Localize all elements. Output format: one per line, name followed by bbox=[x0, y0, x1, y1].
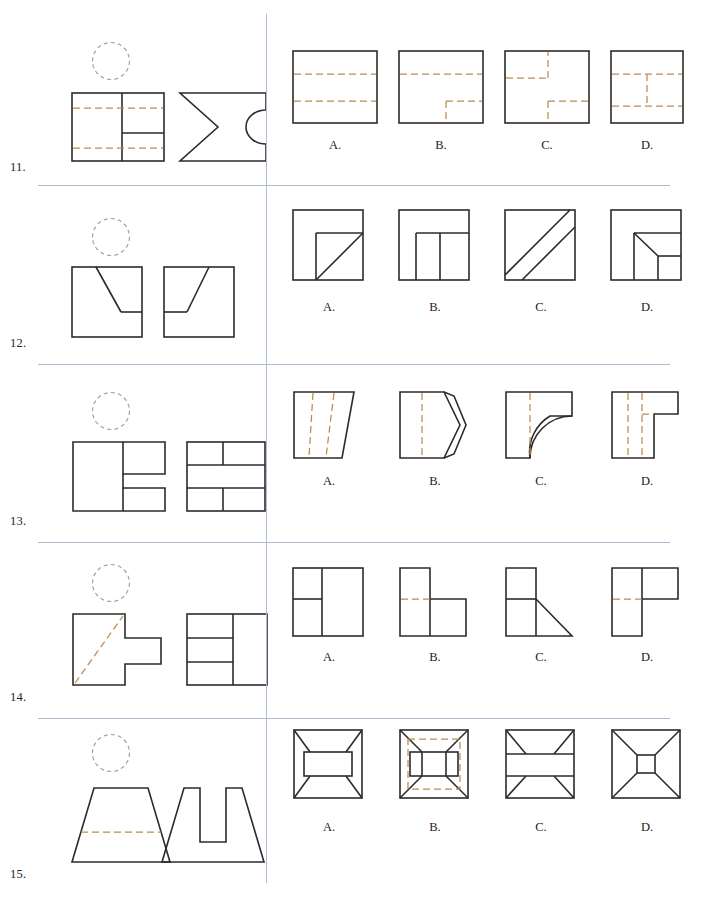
missing-view-circle-11 bbox=[88, 38, 134, 84]
option-label-13-C: C. bbox=[528, 474, 554, 489]
given-view-top-13 bbox=[186, 440, 268, 514]
option-figure-15-A bbox=[292, 728, 368, 804]
option-figure-14-A bbox=[292, 566, 368, 638]
option-figure-15-D bbox=[610, 728, 686, 804]
problem-number: 14. bbox=[10, 690, 26, 705]
given-view-top-14 bbox=[186, 612, 270, 688]
option-figure-11-A bbox=[292, 50, 378, 124]
option-label-12-A: A. bbox=[316, 300, 342, 315]
option-label-15-C: C. bbox=[528, 820, 554, 835]
problem-number: 12. bbox=[10, 336, 26, 351]
given-view-side-11 bbox=[178, 92, 268, 164]
missing-view-circle-13 bbox=[88, 388, 134, 434]
option-label-11-D: D. bbox=[634, 138, 660, 153]
column-divider bbox=[266, 14, 267, 883]
option-figure-11-D bbox=[610, 50, 684, 124]
option-figure-12-D bbox=[610, 209, 684, 283]
option-label-14-C: C. bbox=[528, 650, 554, 665]
option-label-15-B: B. bbox=[422, 820, 448, 835]
given-view-front-13 bbox=[71, 440, 169, 514]
option-label-13-D: D. bbox=[634, 474, 660, 489]
option-label-15-A: A. bbox=[316, 820, 342, 835]
option-figure-15-C bbox=[504, 728, 580, 804]
problem-12: 12. A. B. bbox=[0, 186, 707, 366]
option-figure-13-D bbox=[610, 390, 686, 462]
option-figure-13-B bbox=[398, 390, 474, 462]
option-label-14-D: D. bbox=[634, 650, 660, 665]
given-view-front-14 bbox=[71, 612, 171, 688]
option-figure-12-B bbox=[398, 209, 472, 283]
option-figure-12-C bbox=[504, 209, 578, 283]
option-label-13-A: A. bbox=[316, 474, 342, 489]
option-label-14-A: A. bbox=[316, 650, 342, 665]
option-label-12-D: D. bbox=[634, 300, 660, 315]
problem-divider bbox=[38, 542, 670, 543]
option-label-13-B: B. bbox=[422, 474, 448, 489]
option-figure-11-C bbox=[504, 50, 590, 124]
given-view-front-15 bbox=[68, 786, 174, 866]
option-label-11-C: C. bbox=[534, 138, 560, 153]
problem-divider bbox=[38, 364, 670, 365]
option-figure-12-A bbox=[292, 209, 366, 283]
given-view-side-15 bbox=[160, 786, 268, 866]
option-figure-15-B bbox=[398, 728, 474, 804]
option-label-15-D: D. bbox=[634, 820, 660, 835]
problem-number: 11. bbox=[10, 160, 26, 175]
option-label-12-B: B. bbox=[422, 300, 448, 315]
problem-number: 13. bbox=[10, 514, 26, 529]
option-label-11-B: B. bbox=[428, 138, 454, 153]
given-view-front-11 bbox=[71, 92, 167, 164]
option-figure-14-C bbox=[504, 566, 580, 638]
option-label-11-A: A. bbox=[322, 138, 348, 153]
problem-11: 11. A. B. bbox=[0, 0, 707, 186]
problem-14: 14. A. B. bbox=[0, 544, 707, 720]
problem-13: 13. A. B. bbox=[0, 366, 707, 544]
problem-15: 15. A. bbox=[0, 720, 707, 903]
missing-view-circle-14 bbox=[88, 560, 134, 606]
given-view-side-12 bbox=[163, 266, 237, 339]
problem-divider bbox=[38, 718, 670, 719]
option-figure-11-B bbox=[398, 50, 484, 124]
option-label-12-C: C. bbox=[528, 300, 554, 315]
missing-view-circle-15 bbox=[88, 730, 134, 776]
worksheet-page: 11. A. B. bbox=[0, 0, 707, 903]
given-view-front-12 bbox=[71, 266, 145, 339]
option-label-14-B: B. bbox=[422, 650, 448, 665]
option-figure-14-B bbox=[398, 566, 474, 638]
missing-view-circle-12 bbox=[88, 214, 134, 260]
problem-number: 15. bbox=[10, 867, 26, 882]
option-figure-13-C bbox=[504, 390, 580, 462]
option-figure-13-A bbox=[292, 390, 368, 462]
option-figure-14-D bbox=[610, 566, 686, 638]
